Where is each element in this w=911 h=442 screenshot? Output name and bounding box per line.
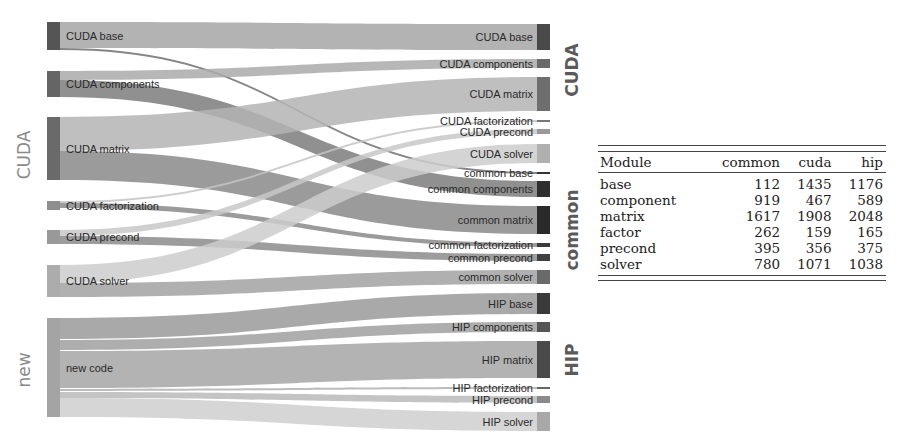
cell-cuda: 467 [783, 192, 834, 208]
cell-hip: 165 [835, 224, 886, 240]
target-node-bar [537, 270, 550, 284]
flow-nc-to-rhs [60, 398, 537, 431]
cell-common: 780 [701, 256, 783, 275]
target-group-label: HIP [562, 343, 582, 376]
source-node-label: CUDA precond [66, 231, 139, 243]
source-group-label: new [14, 352, 34, 387]
target-node-label: HIP components [452, 321, 534, 333]
cell-hip: 2048 [835, 208, 886, 224]
cell-module: factor [598, 224, 701, 240]
cell-cuda: 159 [783, 224, 834, 240]
target-node-label: common matrix [458, 214, 534, 226]
table-top-rule [598, 145, 886, 152]
cell-hip: 375 [835, 240, 886, 256]
header-cuda: cuda [783, 152, 834, 173]
cell-common: 262 [701, 224, 783, 240]
source-node-bar [47, 201, 60, 210]
target-node-bar [537, 243, 550, 247]
table-row: matrix161719082048 [598, 208, 886, 224]
target-node-bar [537, 24, 550, 50]
source-node-label: CUDA matrix [66, 143, 130, 155]
table-bottom-rule [598, 275, 886, 281]
target-node-bar [537, 322, 550, 332]
target-node-bar [537, 181, 550, 197]
target-node-bar [537, 120, 550, 122]
target-node-label: common factorization [428, 239, 533, 251]
source-node-bar [47, 117, 60, 180]
cell-module: matrix [598, 208, 701, 224]
cell-module: base [598, 173, 701, 193]
target-node-label: CUDA base [476, 31, 533, 43]
source-node-label: new code [66, 362, 113, 374]
cell-module: solver [598, 256, 701, 275]
target-node-label: common components [428, 183, 534, 195]
cell-cuda: 1435 [783, 173, 834, 193]
cell-hip: 1038 [835, 256, 886, 275]
source-node-bar [47, 265, 60, 297]
cell-hip: 1176 [835, 173, 886, 193]
source-node-bar [47, 71, 60, 97]
target-node-label: HIP base [488, 298, 533, 310]
table-body: base11214351176component919467589matrix1… [598, 173, 886, 276]
target-node-bar [537, 396, 550, 403]
target-node-bar [537, 206, 550, 234]
header-hip: hip [835, 152, 886, 173]
target-node-label: common solver [458, 271, 533, 283]
cell-cuda: 1908 [783, 208, 834, 224]
target-node-label: CUDA components [439, 58, 533, 70]
target-node-label: CUDA solver [470, 148, 533, 160]
target-node-bar [537, 412, 550, 431]
header-module: Module [598, 152, 701, 173]
target-node-label: HIP matrix [482, 354, 534, 366]
source-node-label: CUDA components [66, 78, 160, 90]
target-group-label: common [562, 190, 582, 271]
source-node-label: CUDA base [66, 30, 123, 42]
cell-common: 1617 [701, 208, 783, 224]
table-row: precond395356375 [598, 240, 886, 256]
target-node-label: common precond [448, 252, 533, 264]
target-node-bar [537, 172, 550, 174]
source-node-bar [47, 318, 60, 417]
target-node-label: CUDA matrix [469, 88, 533, 100]
target-node-label: CUDA precond [460, 126, 533, 138]
table-row: base11214351176 [598, 173, 886, 193]
target-node-bar [537, 254, 550, 261]
sankey-diagram: CUDA baseCUDA componentsCUDA matrixCUDA … [0, 0, 600, 442]
cell-module: component [598, 192, 701, 208]
target-node-bar [537, 387, 550, 389]
target-node-bar [537, 144, 550, 163]
cell-common: 395 [701, 240, 783, 256]
cell-hip: 589 [835, 192, 886, 208]
cell-module: precond [598, 240, 701, 256]
table-row: component919467589 [598, 192, 886, 208]
target-node-bar [537, 293, 550, 314]
cell-common: 112 [701, 173, 783, 193]
cell-cuda: 1071 [783, 256, 834, 275]
source-group-label: CUDA [14, 130, 34, 179]
target-node-label: common base [464, 167, 533, 179]
table-row: factor262159165 [598, 224, 886, 240]
table-header-row: Module common cuda hip [598, 152, 886, 173]
target-node-bar [537, 77, 550, 111]
target-node-label: HIP precond [472, 394, 533, 406]
source-node-bar [47, 22, 60, 50]
target-node-label: HIP solver [482, 416, 533, 428]
cell-common: 919 [701, 192, 783, 208]
source-node-label: CUDA factorization [66, 200, 159, 212]
cell-cuda: 356 [783, 240, 834, 256]
target-node-bar [537, 341, 550, 378]
target-node-bar [537, 59, 550, 68]
module-table: Module common cuda hip base11214351176co… [598, 145, 886, 281]
header-common: common [701, 152, 783, 173]
target-node-bar [537, 129, 550, 134]
target-group-label: CUDA [562, 42, 582, 96]
source-node-bar [47, 230, 60, 244]
flow-cb-to-rcb [60, 22, 537, 50]
table-row: solver78010711038 [598, 256, 886, 275]
target-node-label: HIP factorization [452, 382, 533, 394]
source-node-label: CUDA solver [66, 275, 129, 287]
